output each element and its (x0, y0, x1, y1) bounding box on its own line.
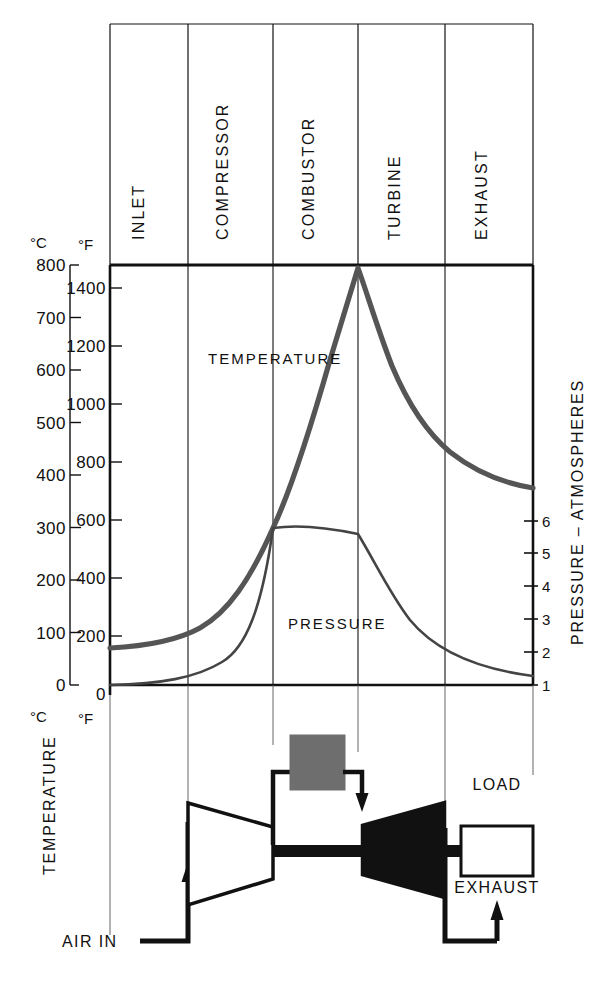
lower-fahrenheit-unit-label: °F (78, 710, 93, 727)
stage-label-turbine: TURBINE (386, 154, 403, 240)
figure-svg: INLET COMPRESSOR COMBUSTOR TURBINE EXHAU… (0, 0, 599, 985)
celsius-tick-label-400: 400 (36, 466, 66, 485)
pressure-tick-label-2: 2 (542, 644, 550, 661)
celsius-tick-label-800: 800 (36, 256, 66, 275)
stage-label-compressor: COMPRESSOR (214, 102, 231, 240)
exhaust-label: EXHAUST (454, 879, 539, 896)
fahrenheit-tick-label-600: 600 (76, 511, 106, 530)
celsius-tick-label-100: 100 (36, 624, 66, 643)
fahrenheit-tick-label-1000: 1000 (66, 395, 106, 414)
pressure-tick-label-5: 5 (542, 545, 550, 562)
celsius-tick-label-500: 500 (36, 414, 66, 433)
fahrenheit-unit-label: °F (78, 236, 93, 253)
lower-axis-title-temperature: TEMPERATURE (41, 735, 58, 875)
stage-label-exhaust: EXHAUST (473, 149, 490, 240)
fahrenheit-tick-label-800: 800 (76, 453, 106, 472)
fahrenheit-tick-label-1400: 1400 (66, 279, 106, 298)
drive-shaft (273, 845, 461, 857)
combustor-box (290, 735, 345, 790)
air-in-label: AIR IN (62, 933, 118, 950)
fahrenheit-tick-label-400: 400 (76, 569, 106, 588)
stage-label-inlet: INLET (130, 184, 147, 240)
celsius-tick-label-300: 300 (36, 519, 66, 538)
lower-celsius-unit-label: °C (30, 708, 47, 725)
load-box (461, 826, 533, 876)
pressure-tick-label-1: 1 (542, 677, 550, 694)
celsius-tick-label-200: 200 (36, 571, 66, 590)
load-label: LOAD (472, 776, 521, 793)
pressure-axis-title: PRESSURE – ATMOSPHERES (569, 379, 586, 645)
temperature-curve-label: TEMPERATURE (208, 350, 342, 367)
fahrenheit-tick-label-0: 0 (96, 685, 106, 704)
fahrenheit-tick-label-1200: 1200 (66, 337, 106, 356)
celsius-tick-label-0: 0 (56, 676, 66, 695)
pressure-tick-label-6: 6 (542, 513, 550, 530)
pressure-tick-label-3: 3 (542, 611, 550, 628)
fahrenheit-tick-label-200: 200 (76, 627, 106, 646)
stage-label-combustor: COMBUSTOR (300, 116, 317, 240)
celsius-tick-label-700: 700 (36, 309, 66, 328)
pressure-curve-label: PRESSURE (288, 615, 387, 632)
pressure-tick-label-4: 4 (542, 578, 550, 595)
celsius-tick-label-600: 600 (36, 361, 66, 380)
gas-turbine-cycle-figure: INLET COMPRESSOR COMBUSTOR TURBINE EXHAU… (0, 0, 599, 985)
celsius-unit-label: °C (30, 234, 47, 251)
